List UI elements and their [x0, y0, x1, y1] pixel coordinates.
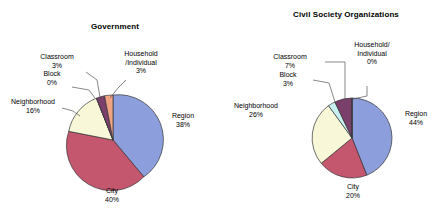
pie-label-city-value: 40% — [93, 196, 131, 205]
chart-panel-civil-society-organizations: Civil Society Organizations Classroom 7%… — [221, 0, 442, 215]
pie-label-neighborhood-value: 16% — [2, 107, 64, 116]
pie-label-neighborhood-value: 26% — [225, 111, 287, 120]
pie-label-classroom: Classroom 3% — [26, 53, 88, 70]
pie-label-region-name: Region — [172, 112, 194, 119]
pie-label-block: Block 3% — [266, 71, 310, 88]
pie-label-region: Region 38% — [160, 112, 206, 129]
pie-label-region: Region 44% — [393, 110, 439, 127]
leader-line-classroom — [86, 72, 100, 97]
pie-label-block: Block 0% — [30, 70, 74, 87]
pie-label-household-name2: Individual — [343, 50, 401, 59]
pie-label-region-value: 44% — [393, 119, 439, 128]
leader-line-block — [313, 80, 335, 102]
leader-line-classroom — [325, 62, 345, 100]
pie-label-block-value: 0% — [30, 79, 74, 88]
pie-label-household-individual: Household /Individual 3% — [112, 50, 170, 76]
pie-label-household-value: 3% — [112, 67, 170, 76]
pie-label-classroom-name: Classroom — [40, 53, 73, 60]
pie-label-neighborhood-name: Neighborhood — [11, 98, 55, 105]
pie-label-region-value: 38% — [160, 121, 206, 130]
pie-label-city: City 40% — [93, 187, 131, 204]
pie-label-classroom-name: Classroom — [273, 53, 306, 60]
pie-label-neighborhood: Neighborhood 16% — [2, 98, 64, 115]
leader-line-household-individual — [353, 86, 367, 99]
pie-label-household-name: Household — [124, 50, 157, 57]
leader-line-block — [72, 87, 95, 98]
pie-label-classroom-value: 7% — [259, 62, 321, 71]
pie-label-neighborhood: Neighborhood 26% — [225, 102, 287, 119]
pie-label-city-value: 20% — [334, 192, 372, 201]
pie-label-neighborhood-name: Neighborhood — [234, 102, 278, 109]
pie-label-city-name: City — [106, 187, 118, 194]
pie-label-city: City 20% — [334, 183, 372, 200]
pie-label-classroom-value: 3% — [26, 62, 88, 71]
pie-label-region-name: Region — [405, 110, 427, 117]
pie-label-city-name: City — [347, 183, 359, 190]
pie-label-household-name: Household/ — [354, 41, 389, 48]
pie-label-classroom: Classroom 7% — [259, 53, 321, 70]
pie-label-household-individual: Household/ Individual 0% — [343, 41, 401, 67]
pie-label-block-name: Block — [279, 71, 296, 78]
pie-label-household-value: 0% — [343, 58, 401, 67]
pie-label-block-name: Block — [43, 70, 60, 77]
pie-label-block-value: 3% — [266, 80, 310, 89]
chart-panel-government: Government Classroom 3% Block 0% Neighbo… — [0, 0, 221, 215]
pie-label-household-name2: /Individual — [112, 59, 170, 68]
